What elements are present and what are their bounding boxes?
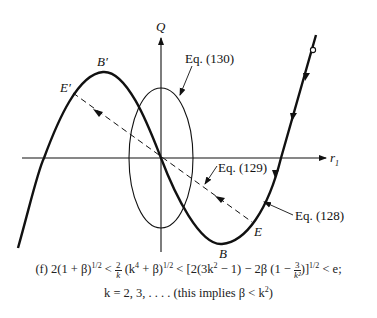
caption-text: < [102, 262, 115, 276]
caption-text: < e; [319, 262, 341, 276]
caption-text: (f) 2(1 + β) [35, 262, 91, 276]
q-axis-label: Q [156, 19, 165, 35]
r1-axis-label: r1 [330, 150, 339, 168]
caption-exp: 1/2 [163, 261, 173, 270]
caption-line-1: (f) 2(1 + β)1/2 < 2k (k4 + β)1/2 < [2(3k… [0, 261, 377, 280]
annotation-eq129: Eq. (129) [218, 160, 267, 176]
caption-text: k = 2, 3, . . . . (this implies β < k [104, 286, 265, 300]
caption-text: [2(3k [186, 262, 213, 276]
leader-eq130 [180, 66, 192, 95]
point-label-e-prime: E′ [60, 80, 71, 96]
caption-line-2: k = 2, 3, . . . . (this implies β < k2) [0, 285, 377, 301]
annotation-eq130: Eq. (130) [185, 51, 234, 67]
annotation-eq128: Eq. (128) [295, 208, 344, 224]
leader-eq129 [205, 166, 217, 184]
leader-eq128 [264, 202, 293, 215]
point-label-b: B [219, 246, 227, 262]
caption-exp: 1/2 [309, 261, 319, 270]
point-label-e: E [254, 224, 262, 240]
arrow-branch-lower-icon [272, 170, 279, 178]
caption-text: (k [122, 262, 136, 276]
initial-point-marker [310, 47, 315, 52]
r1-axis-label-sub: 1 [335, 159, 339, 168]
fraction-denominator: k² [294, 271, 301, 280]
caption-text: ) [269, 286, 273, 300]
arrow-dashed-upper-icon [93, 109, 103, 117]
caption-text: < [173, 262, 186, 276]
caption-text: )] [301, 262, 309, 276]
caption-fraction-2: 3k² [294, 261, 301, 280]
caption-exp: 1/2 [92, 261, 102, 270]
caption-text: + β) [139, 262, 163, 276]
trajectory-eq128-curve [18, 35, 316, 248]
caption-text: − 1) − 2β (1 − [218, 262, 294, 276]
point-label-b-prime: B′ [97, 54, 108, 70]
